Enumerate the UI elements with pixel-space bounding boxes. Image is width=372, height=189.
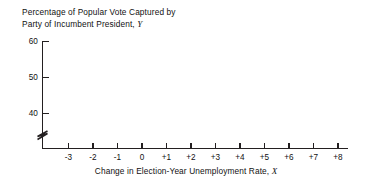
x-tick-label-+8: +8 — [327, 153, 349, 162]
y-tick-label-60: 60 — [22, 37, 38, 46]
x-tick-label-+1: +1 — [156, 153, 178, 162]
y-tick-label-50: 50 — [22, 73, 38, 82]
x-tick-label-+6: +6 — [278, 153, 300, 162]
x-tick-label-+3: +3 — [205, 153, 227, 162]
x-tick-label--2: -2 — [82, 153, 104, 162]
y-tick-label-40: 40 — [22, 109, 38, 118]
chart-figure: Percentage of Popular Vote Captured by P… — [0, 0, 372, 189]
x-tick-label-+5: +5 — [254, 153, 276, 162]
x-tick-label--1: -1 — [107, 153, 129, 162]
x-tick-label-0: 0 — [131, 153, 153, 162]
x-axis-title-text: Change in Election-Year Unemployment Rat… — [95, 166, 269, 176]
x-tick-label-+2: +2 — [180, 153, 202, 162]
x-tick-label-+4: +4 — [229, 153, 251, 162]
x-tick-label-+7: +7 — [303, 153, 325, 162]
x-tick-marks — [69, 143, 339, 149]
x-axis-variable-symbol: X — [272, 166, 278, 176]
x-axis-title: Change in Election-Year Unemployment Rat… — [0, 166, 372, 176]
x-tick-label--3: -3 — [58, 153, 80, 162]
y-tick-marks — [43, 42, 50, 114]
